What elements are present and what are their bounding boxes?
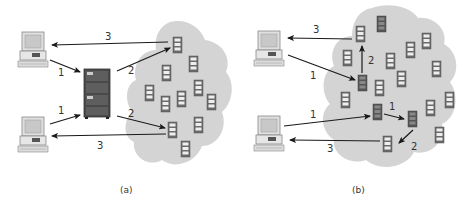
arrow-label: 2 <box>368 55 374 66</box>
arrow-label: 2 <box>411 141 417 152</box>
client-pc-bottom <box>254 116 284 151</box>
arrow-label: 2 <box>128 108 134 119</box>
arrow-label: 1 <box>58 105 64 116</box>
panel-caption: (b) <box>352 185 365 195</box>
panel-b: 1 2 3 1 1 2 3 (b) <box>254 5 456 195</box>
client-pc-bottom <box>18 117 48 152</box>
client-pc-top <box>254 31 284 66</box>
panel-caption: (a) <box>120 185 133 195</box>
arrow-label: 1 <box>310 109 316 120</box>
panel-a: 1 1 2 2 3 3 (a) <box>18 21 232 195</box>
arrow-label: 1 <box>58 67 64 78</box>
arrow-label: 1 <box>310 70 316 81</box>
arrow-label: 3 <box>327 143 333 154</box>
arrow-label: 3 <box>97 140 103 151</box>
arrow-label: 2 <box>128 65 134 76</box>
arrow-label: 3 <box>105 31 111 42</box>
arrow-label: 3 <box>313 24 319 35</box>
central-server <box>84 69 110 119</box>
arrow-label: 1 <box>389 101 395 112</box>
client-pc-top <box>18 32 48 67</box>
